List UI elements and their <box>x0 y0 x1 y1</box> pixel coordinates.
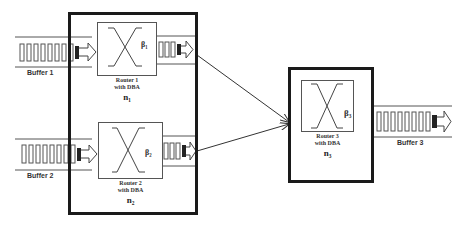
router-3-box <box>301 80 354 132</box>
router-2-label: Router 2 with DBA <box>98 180 163 194</box>
router-2-node-label: n₂ <box>98 195 163 205</box>
buffer-1-label: Buffer 1 <box>27 69 53 76</box>
router-3-label: Router 3 with DBA <box>301 133 354 147</box>
router-1-label: Router 1 with DBA <box>97 77 157 91</box>
router-3-beta: β₃ <box>344 108 351 118</box>
router-3-node-label: n₃ <box>301 148 354 158</box>
router-1-box <box>97 22 157 76</box>
buffer-3-queue <box>374 106 452 137</box>
router-2-box <box>98 122 163 179</box>
router-1-node-label: n₁ <box>97 92 157 102</box>
router-2-beta: β₂ <box>145 148 152 157</box>
edge-router1-to-router3 <box>197 55 289 122</box>
edge-router2-to-router3 <box>197 124 289 151</box>
buffer-2-label: Buffer 2 <box>27 172 53 179</box>
router-1-beta: β₁ <box>141 40 148 49</box>
buffer-3-label: Buffer 3 <box>397 139 423 146</box>
